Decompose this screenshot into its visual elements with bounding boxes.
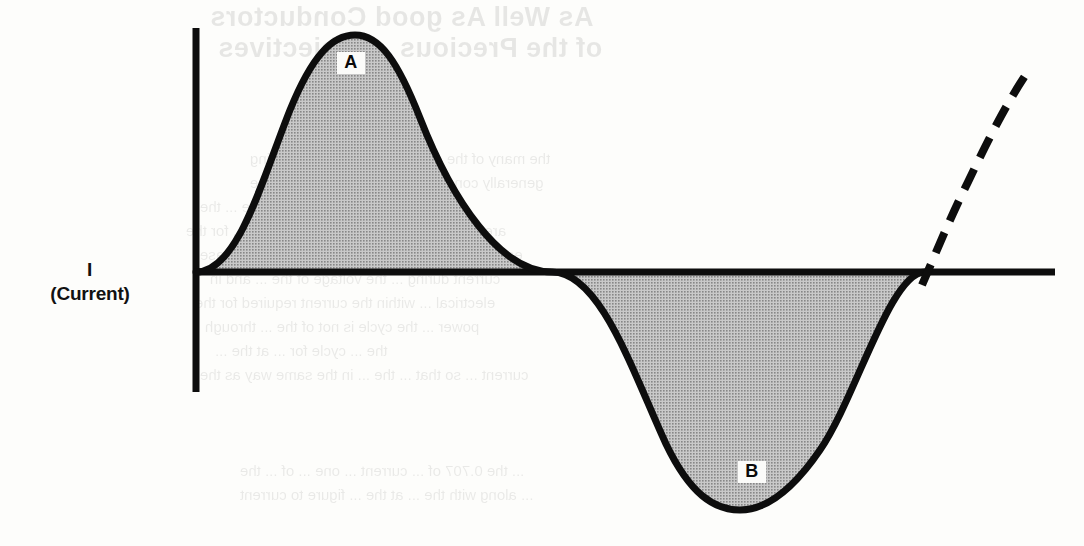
region-tag-b: B (738, 461, 766, 483)
shaded-region-a (196, 35, 552, 272)
y-axis-label-block: I (Current) (2, 258, 178, 306)
y-axis-symbol: I (2, 258, 178, 282)
sine-wave-dashed-continuation (922, 67, 1031, 285)
region-tag-a: A (337, 52, 365, 74)
y-axis-unit-name: (Current) (2, 282, 178, 306)
scanned-page: As Well As good Conductors of the Precio… (0, 0, 1084, 546)
